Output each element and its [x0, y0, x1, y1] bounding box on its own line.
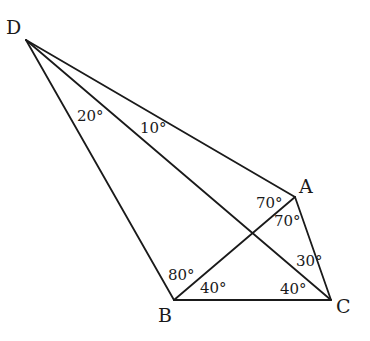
segment-dc: [26, 40, 331, 300]
geometry-diagram: DABC 20°10°70°70°30°40°80°40°: [0, 0, 370, 341]
vertex-label-a: A: [298, 175, 313, 197]
vertex-label-d: D: [6, 16, 21, 38]
diagram-edges: [26, 40, 331, 300]
angle-label: 70°: [274, 212, 301, 230]
vertex-label-c: C: [336, 295, 351, 317]
angle-label: 30°: [296, 252, 323, 270]
angle-label: 40°: [280, 280, 307, 298]
segment-db: [26, 40, 174, 300]
angle-label: 20°: [77, 107, 104, 125]
angle-labels: 20°10°70°70°30°40°80°40°: [77, 107, 323, 298]
angle-label: 80°: [168, 266, 195, 284]
angle-label: 70°: [256, 194, 283, 212]
vertex-label-b: B: [158, 304, 172, 326]
angle-label: 40°: [200, 279, 227, 297]
angle-label: 10°: [140, 119, 167, 137]
